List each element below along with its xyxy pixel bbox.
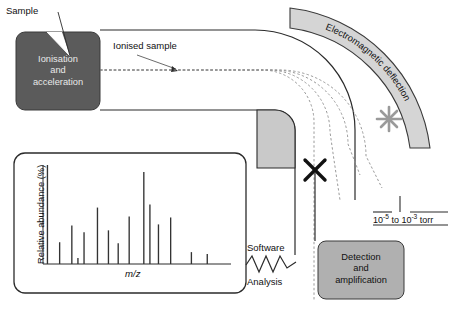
- ionisation-line-3: acceleration: [16, 77, 100, 88]
- electromagnetic-deflection-arc: [290, 8, 430, 148]
- pressure-prefix: 10: [373, 215, 383, 225]
- ionisation-line-1: Ionisation: [16, 54, 100, 65]
- deflection-x-marker: [377, 107, 401, 131]
- software-label: Software: [247, 243, 285, 254]
- ionisation-line-2: and: [16, 65, 100, 76]
- detection-box-label: Detection and amplification: [318, 252, 404, 286]
- analysis-label: Analysis: [247, 277, 282, 288]
- pressure-middle: to 10: [389, 215, 412, 225]
- detection-line-2: and: [318, 263, 404, 274]
- detection-line-3: amplification: [318, 275, 404, 286]
- pressure-suffix: torr: [417, 215, 433, 225]
- tube-corner-fill: [257, 110, 295, 168]
- mass-spectrometer-diagram: Electromagnetic deflection: [0, 0, 454, 317]
- spectrum-x-axis-label: m/z: [125, 268, 140, 279]
- detection-line-1: Detection: [318, 252, 404, 263]
- sample-label: Sample: [6, 6, 38, 17]
- spectrum-y-axis-label: Relative abundance (%): [36, 165, 46, 264]
- ionised-sample-label: Ionised sample: [113, 41, 177, 52]
- ionisation-box-label: Ionisation and acceleration: [16, 54, 100, 88]
- pressure-label: 10-5 to 10-3 torr: [373, 213, 433, 225]
- software-analysis-zigzag: [246, 256, 296, 272]
- ionised-sample-leader: [137, 55, 178, 72]
